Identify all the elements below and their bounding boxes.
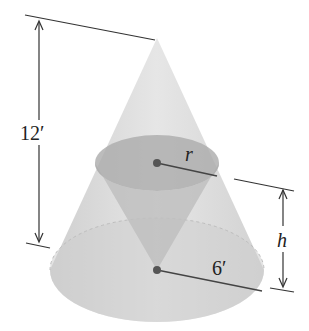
inner-center-dot: [153, 159, 161, 167]
base-center-dot: [153, 266, 161, 274]
inner-height-label: h: [277, 230, 287, 250]
inner-radius-label: r: [185, 144, 193, 164]
cone-figure: [0, 0, 309, 331]
diagram: 12′ 6′ r h: [0, 0, 309, 331]
outer-height-label: 12′: [20, 123, 44, 143]
outer-radius-label: 6′: [212, 258, 226, 278]
